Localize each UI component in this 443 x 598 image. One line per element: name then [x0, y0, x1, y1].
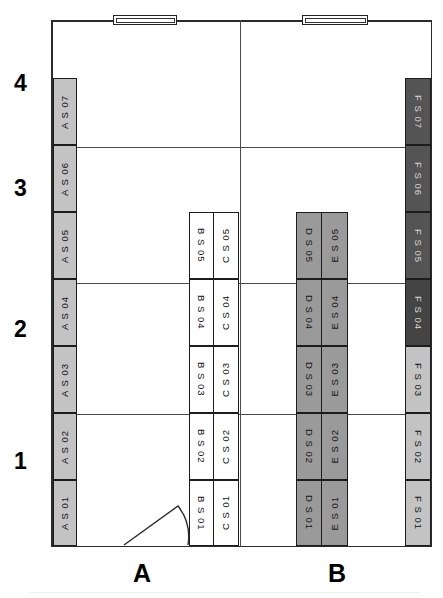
wall-top-left	[51, 20, 114, 22]
module-label: C S 04	[221, 295, 231, 330]
column-label-a: A	[133, 561, 151, 586]
module-as-07[interactable]: A S 07	[53, 78, 77, 145]
module-ds-05[interactable]: D S 05	[296, 212, 322, 279]
module-label: D S 01	[304, 495, 314, 530]
module-fs-01[interactable]: F S 01	[405, 480, 431, 546]
module-bs-05[interactable]: B S 05	[189, 212, 214, 279]
module-label: C S 02	[221, 429, 231, 464]
window-right-icon	[302, 15, 368, 25]
module-label: E S 05	[330, 228, 340, 263]
window-left-icon	[113, 15, 177, 25]
module-label: C S 03	[221, 362, 231, 397]
module-label: B S 01	[197, 496, 207, 531]
partition-row-3-2	[77, 283, 406, 284]
module-label: F S 02	[413, 430, 423, 464]
module-label: C S 05	[221, 228, 231, 263]
module-label: D S 03	[304, 362, 314, 397]
module-as-01[interactable]: A S 01	[53, 480, 77, 546]
module-label: A S 07	[60, 95, 70, 129]
module-label: F S 03	[413, 363, 423, 397]
module-as-04[interactable]: A S 04	[53, 279, 77, 346]
module-cs-02[interactable]: C S 02	[213, 413, 239, 480]
module-fs-06[interactable]: F S 06	[405, 145, 431, 212]
module-bs-01[interactable]: B S 01	[189, 480, 214, 546]
module-label: E S 01	[330, 496, 340, 531]
module-ds-01[interactable]: D S 01	[296, 480, 322, 546]
module-label: A S 05	[60, 229, 70, 263]
module-as-02[interactable]: A S 02	[53, 413, 77, 480]
module-label: A S 03	[60, 363, 70, 397]
module-label: D S 02	[304, 429, 314, 464]
module-fs-04[interactable]: F S 04	[405, 279, 431, 346]
module-label: A S 01	[60, 496, 70, 530]
module-label: F S 01	[413, 496, 423, 530]
module-es-05[interactable]: E S 05	[321, 212, 348, 279]
module-ds-02[interactable]: D S 02	[296, 413, 322, 480]
module-es-04[interactable]: E S 04	[321, 279, 348, 346]
module-cs-03[interactable]: C S 03	[213, 346, 239, 413]
module-label: D S 04	[304, 295, 314, 330]
module-cs-05[interactable]: C S 05	[213, 212, 239, 279]
module-label: A S 06	[60, 162, 70, 196]
row-label-3: 3	[14, 177, 27, 200]
module-label: F S 04	[413, 296, 423, 330]
module-label: A S 02	[60, 430, 70, 464]
module-cs-04[interactable]: C S 04	[213, 279, 239, 346]
module-label: E S 04	[330, 295, 340, 330]
module-label: A S 04	[60, 296, 70, 330]
module-cs-01[interactable]: C S 01	[213, 480, 239, 546]
wall-bottom	[51, 546, 431, 548]
partition-row-2-1	[77, 414, 406, 415]
row-label-1: 1	[14, 450, 27, 473]
module-as-06[interactable]: A S 06	[53, 145, 77, 212]
module-fs-02[interactable]: F S 02	[405, 413, 431, 480]
module-label: B S 04	[197, 295, 207, 330]
module-es-02[interactable]: E S 02	[321, 413, 348, 480]
module-label: F S 06	[413, 162, 423, 196]
module-as-05[interactable]: A S 05	[53, 212, 77, 279]
column-label-b: B	[328, 561, 346, 586]
wall-top-right	[367, 20, 432, 22]
module-es-01[interactable]: E S 01	[321, 480, 348, 546]
module-label: F S 05	[413, 229, 423, 263]
module-fs-07[interactable]: F S 07	[405, 78, 431, 145]
module-label: F S 07	[413, 95, 423, 129]
module-fs-03[interactable]: F S 03	[405, 346, 431, 413]
module-as-03[interactable]: A S 03	[53, 346, 77, 413]
module-label: E S 02	[330, 429, 340, 464]
module-label: B S 02	[197, 429, 207, 464]
module-label: E S 03	[330, 362, 340, 397]
row-label-2: 2	[14, 318, 27, 341]
module-bs-03[interactable]: B S 03	[189, 346, 214, 413]
scan-artifact	[30, 592, 420, 593]
module-label: C S 01	[221, 495, 231, 530]
module-es-03[interactable]: E S 03	[321, 346, 348, 413]
module-bs-02[interactable]: B S 02	[189, 413, 214, 480]
module-fs-05[interactable]: F S 05	[405, 212, 431, 279]
floor-plan-canvas: A S 07 A S 06 A S 05 A S 04 A S 03 A S 0…	[0, 0, 443, 598]
row-label-4: 4	[14, 72, 27, 95]
module-ds-03[interactable]: D S 03	[296, 346, 322, 413]
module-label: D S 05	[304, 228, 314, 263]
module-label: B S 03	[197, 362, 207, 397]
module-label: B S 05	[197, 228, 207, 263]
module-ds-04[interactable]: D S 04	[296, 279, 322, 346]
module-bs-04[interactable]: B S 04	[189, 279, 214, 346]
partition-row-4-3	[77, 147, 406, 148]
